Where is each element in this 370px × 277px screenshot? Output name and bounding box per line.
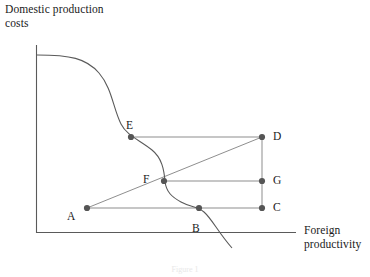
figure-caption: Figure 1 (0, 265, 370, 275)
point-C-marker[interactable] (259, 205, 265, 211)
point-label-G: G (273, 174, 281, 186)
x-axis-label: Foreign productivity (304, 224, 361, 251)
point-label-A: A (67, 210, 75, 222)
point-label-F: F (143, 173, 149, 185)
point-D-marker[interactable] (259, 134, 265, 140)
point-F-marker[interactable] (161, 178, 167, 184)
point-label-D: D (273, 130, 281, 142)
point-E-marker[interactable] (128, 134, 134, 140)
point-label-B: B (192, 222, 200, 234)
y-axis-label: Domestic production costs (5, 3, 104, 30)
point-B-marker[interactable] (196, 205, 202, 211)
point-A-marker[interactable] (84, 205, 90, 211)
point-label-E: E (126, 119, 133, 131)
point-label-C: C (273, 201, 281, 213)
point-G-marker[interactable] (259, 178, 265, 184)
figure-root: Domestic production costs Foreign produc… (0, 0, 370, 277)
